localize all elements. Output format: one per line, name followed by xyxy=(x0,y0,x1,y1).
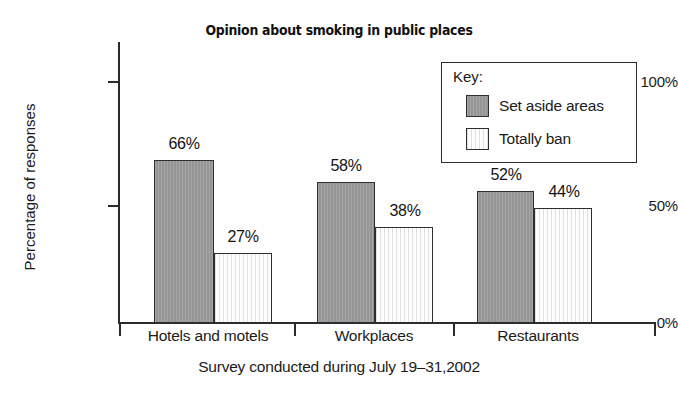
bar-label-restaurants-totally-ban: 44% xyxy=(524,183,604,201)
y-axis-label-container: Percentage of responses xyxy=(14,62,44,312)
bar-label-workplaces-totally-ban: 38% xyxy=(365,202,445,220)
bar-restaurants-totally-ban[interactable] xyxy=(534,208,592,323)
legend-swatch-icon-set-aside xyxy=(466,95,489,117)
x-category-label-hotels: Hotels and motels xyxy=(122,327,294,345)
chart-caption: Survey conducted during July 19–31,2002 xyxy=(0,358,678,376)
legend-swatch-icon-totally-ban xyxy=(466,128,489,150)
bar-label-restaurants-set-aside: 52% xyxy=(466,166,546,184)
bar-label-workplaces-set-aside: 58% xyxy=(306,157,386,175)
bar-workplaces-totally-ban[interactable] xyxy=(375,227,433,323)
bar-hotels-totally-ban[interactable] xyxy=(214,253,272,323)
x-axis-tick-end xyxy=(654,323,656,336)
x-axis-tick-2 xyxy=(453,323,455,336)
chart-canvas: Opinion about smoking in public places P… xyxy=(0,0,678,408)
legend-box: Key: Set aside areas Totally ban xyxy=(441,62,637,163)
x-axis-tick-1 xyxy=(294,323,296,336)
bar-restaurants-set-aside[interactable] xyxy=(477,191,534,323)
legend-title: Key: xyxy=(453,68,483,85)
x-category-label-restaurants: Restaurants xyxy=(458,327,618,345)
y-axis-label: Percentage of responses xyxy=(21,104,38,271)
legend-label-totally-ban: Totally ban xyxy=(499,130,571,148)
legend-label-set-aside: Set aside areas xyxy=(499,97,604,115)
bar-label-hotels-set-aside: 66% xyxy=(144,135,224,153)
legend-item-totally-ban[interactable]: Totally ban xyxy=(453,126,571,152)
x-axis-tick-start xyxy=(119,323,121,336)
page-title: Opinion about smoking in public places xyxy=(47,22,630,38)
legend-item-set-aside-areas[interactable]: Set aside areas xyxy=(453,93,604,119)
x-category-label-workplaces: Workplaces xyxy=(298,327,450,345)
bar-label-hotels-totally-ban: 27% xyxy=(203,228,283,246)
